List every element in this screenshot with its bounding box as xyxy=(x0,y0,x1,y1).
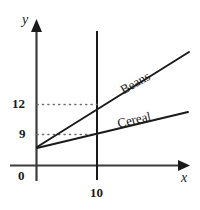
chart-canvas xyxy=(0,0,200,210)
series-line-beans xyxy=(37,52,189,147)
y-tick-label-9: 9 xyxy=(19,127,26,140)
y-axis-label: y xyxy=(22,13,28,27)
x-axis-label: x xyxy=(181,171,187,185)
x-tick-label-10: 10 xyxy=(90,186,103,199)
line-chart-figure: 12 9 0 10 y x Beans Cereal xyxy=(0,0,200,210)
y-axis-arrowhead xyxy=(31,19,42,32)
origin-label: 0 xyxy=(18,169,25,182)
y-axis xyxy=(31,19,42,181)
y-tick-label-12: 12 xyxy=(12,97,25,110)
series-line-cereal xyxy=(37,112,188,148)
